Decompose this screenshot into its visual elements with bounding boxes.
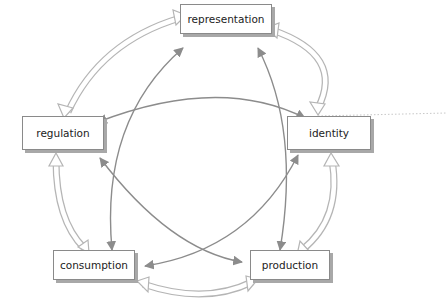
node-production: production (250, 250, 330, 280)
node-label: production (262, 259, 318, 271)
node-label: regulation (36, 127, 89, 139)
node-regulation: regulation (22, 116, 104, 150)
node-label: identity (309, 127, 349, 139)
inner-arrow-regulation-production (100, 158, 242, 262)
inner-arrow-representation-consumption (110, 48, 183, 250)
node-label: representation (187, 13, 264, 25)
node-label: consumption (60, 259, 128, 271)
node-identity: identity (287, 116, 371, 150)
node-representation: representation (180, 4, 272, 34)
inner-arrow-regulation-identity (98, 97, 305, 122)
inner-arrows (98, 48, 305, 266)
inner-arrow-representation-production (258, 48, 286, 250)
outer-arrow-regulation-representation (68, 18, 180, 112)
node-consumption: consumption (53, 250, 135, 280)
